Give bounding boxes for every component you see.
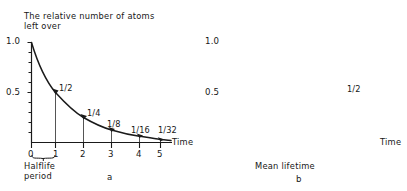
panel-b-time-label: Time	[380, 137, 401, 147]
panel-b-ylabel-1.0: 1.0	[205, 36, 219, 46]
figure-root: The relative number of atoms left over	[0, 0, 407, 191]
panel-b-ylabel-0.5: 0.5	[205, 87, 219, 97]
panel-b-point-label-half: 1/2	[347, 84, 360, 94]
panel-b-letter: b	[296, 174, 301, 184]
panel-b-mean-lifetime-label: Mean lifetime	[255, 161, 315, 171]
panel-b: The relative number of individuals still…	[204, 0, 407, 191]
panel-b-plot	[0, 0, 203, 191]
